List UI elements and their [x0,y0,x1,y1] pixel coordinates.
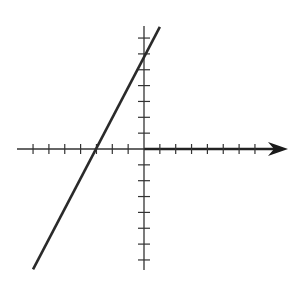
plotted-line [33,27,160,270]
line-graph [0,0,305,293]
